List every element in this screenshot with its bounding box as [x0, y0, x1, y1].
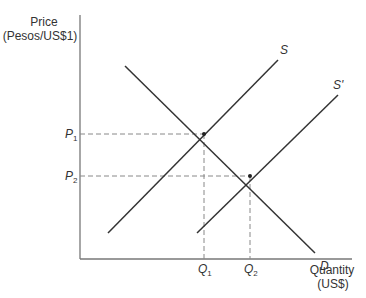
- supply-curve-s-prime: [197, 95, 338, 233]
- equilibrium-point-2: [248, 174, 252, 178]
- label-q2: Q2: [244, 262, 258, 278]
- equilibrium-point-1: [202, 132, 206, 136]
- x-axis-label-line2: (US$): [317, 277, 348, 291]
- label-p2: P2: [65, 169, 78, 185]
- demand-curve: [125, 66, 315, 253]
- supply-demand-diagram: Price (Pesos/US$1) Quantity (US$) S S' D…: [0, 0, 366, 298]
- supply-curve-s: [108, 60, 278, 233]
- y-axis-label-line2: (Pesos/US$1): [3, 29, 78, 43]
- label-s: S: [280, 43, 288, 57]
- label-s-prime: S': [333, 78, 344, 92]
- label-q1: Q1: [198, 262, 212, 278]
- x-axis-label-line1: Quantity: [310, 263, 355, 277]
- label-d: D: [320, 259, 329, 273]
- y-axis-label-line1: Price: [30, 15, 58, 29]
- label-p1: P1: [65, 127, 78, 143]
